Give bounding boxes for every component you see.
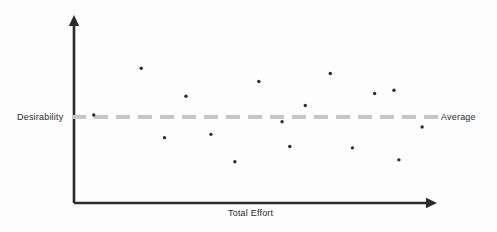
plot-area xyxy=(0,0,497,232)
data-point xyxy=(184,95,187,98)
x-axis-title: Total Effort xyxy=(228,208,273,218)
scatter-chart: Desirability Total Effort Average xyxy=(0,0,497,232)
data-point xyxy=(257,80,260,83)
data-point xyxy=(233,160,236,163)
data-point xyxy=(397,158,400,161)
axes-group xyxy=(69,15,437,208)
average-line-label: Average xyxy=(441,112,476,122)
x-axis-arrowhead xyxy=(426,198,437,208)
data-point xyxy=(163,136,166,139)
data-point xyxy=(209,133,212,136)
data-point xyxy=(304,104,307,107)
data-point xyxy=(280,120,283,123)
data-point xyxy=(373,92,376,95)
data-point xyxy=(329,72,332,75)
y-axis-title: Desirability xyxy=(17,112,63,122)
data-point xyxy=(92,113,95,116)
data-point xyxy=(392,89,395,92)
data-point xyxy=(420,125,423,128)
data-point xyxy=(140,67,143,70)
y-axis-arrowhead xyxy=(69,15,79,26)
data-point xyxy=(351,146,354,149)
data-point xyxy=(288,145,291,148)
